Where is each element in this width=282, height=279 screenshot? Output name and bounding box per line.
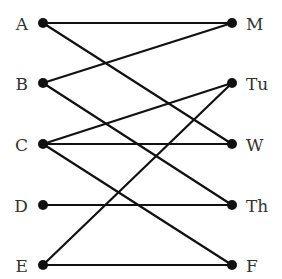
node-label-tu: Tu [246,74,268,94]
node-dot-d [38,200,48,210]
node-dot-m [227,18,237,28]
node-dot-b [38,78,48,88]
node-dot-th [227,200,237,210]
node-label-a: A [15,14,29,34]
node-label-d: D [14,196,28,216]
edge-b-m [43,23,232,83]
node-dot-tu [227,78,237,88]
node-label-b: B [16,74,29,94]
node-label-c: C [15,135,28,155]
node-label-m: M [246,14,263,34]
node-dot-f [227,260,237,270]
node-dot-a [38,18,48,28]
node-label-th: Th [246,196,268,216]
node-label-f: F [246,256,258,276]
edge-c-tu [43,83,232,144]
node-dot-c [38,139,48,149]
node-dot-w [227,139,237,149]
edges [43,23,232,265]
edge-a-w [43,23,232,144]
node-dot-e [38,260,48,270]
node-label-w: W [246,135,264,155]
node-label-e: E [16,256,28,276]
edge-e-tu [43,83,232,265]
bipartite-graph: ABCDEMTuWThF [0,0,282,279]
